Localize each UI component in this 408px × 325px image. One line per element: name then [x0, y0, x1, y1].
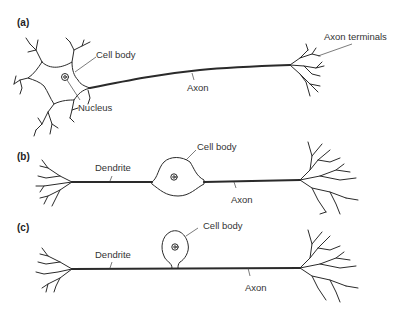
label-a-axon-terminals: Axon terminals: [324, 32, 387, 42]
bipolar-neuron: [36, 142, 358, 214]
panel-label-c: (c): [17, 223, 29, 233]
neuron-types-diagram: (a) (b) (c) Cell body Nucleus Axon Axon …: [0, 0, 408, 325]
label-c-cell-body: Cell body: [203, 221, 243, 231]
label-a-nucleus: Nucleus: [78, 103, 112, 113]
neuron-drawings: [0, 0, 408, 325]
label-a-axon: Axon: [187, 83, 209, 93]
multipolar-neuron: [14, 38, 352, 136]
label-b-dendrite: Dendrite: [95, 163, 131, 173]
label-c-dendrite: Dendrite: [95, 250, 131, 260]
unipolar-neuron: [36, 228, 358, 302]
label-b-cell-body: Cell body: [197, 142, 237, 152]
panel-label-b: (b): [17, 152, 30, 162]
label-c-axon: Axon: [245, 283, 267, 293]
panel-label-a: (a): [17, 18, 29, 28]
label-b-axon: Axon: [231, 195, 253, 205]
label-a-cell-body: Cell body: [96, 50, 136, 60]
